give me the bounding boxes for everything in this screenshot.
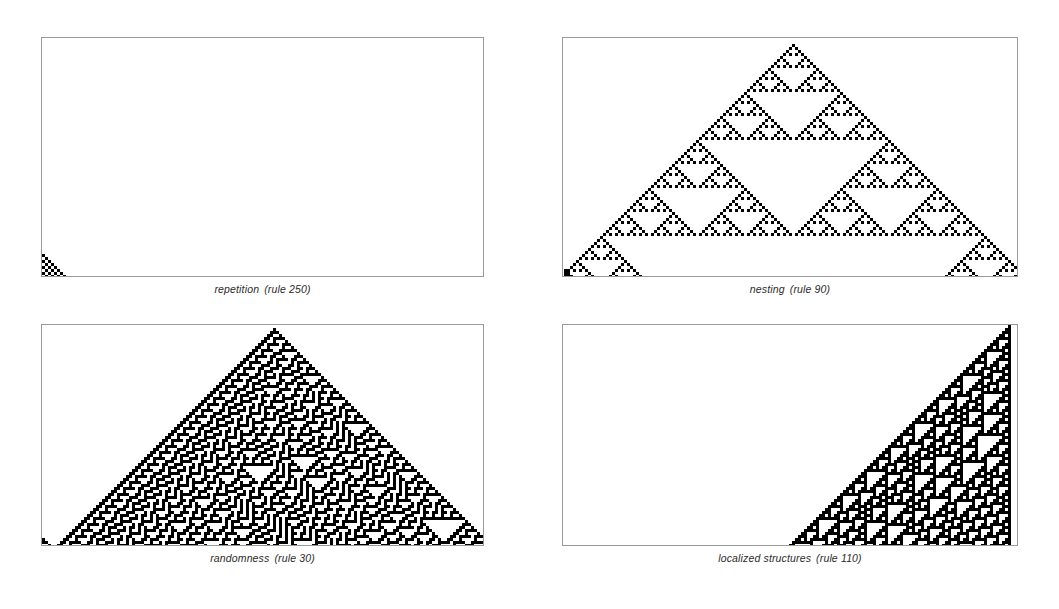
ca-plot-frame-repetition bbox=[41, 37, 484, 277]
ca-panel-localized-structures: localized structures(rule 110) bbox=[562, 324, 1018, 568]
cellular-automata-figure: repetition(rule 250) nesting(rule 90) ra… bbox=[0, 0, 1059, 609]
ca-caption-class-localized-structures: localized structures bbox=[718, 552, 811, 564]
ca-caption-rule-randomness: (rule 30) bbox=[274, 552, 314, 564]
ca-canvas-nesting bbox=[563, 38, 1017, 276]
ca-caption-nesting: nesting(rule 90) bbox=[562, 283, 1018, 295]
ca-caption-rule-nesting: (rule 90) bbox=[790, 283, 830, 295]
ca-canvas-localized-structures bbox=[563, 325, 1017, 545]
ca-canvas-randomness bbox=[42, 325, 483, 545]
ca-canvas-repetition bbox=[42, 38, 483, 276]
ca-panel-nesting: nesting(rule 90) bbox=[562, 37, 1018, 299]
ca-caption-class-nesting: nesting bbox=[750, 283, 785, 295]
ca-caption-randomness: randomness(rule 30) bbox=[41, 552, 484, 564]
ca-caption-rule-localized-structures: (rule 110) bbox=[816, 552, 862, 564]
ca-caption-class-randomness: randomness bbox=[210, 552, 269, 564]
ca-panel-repetition: repetition(rule 250) bbox=[41, 37, 484, 299]
panel-grid: repetition(rule 250) nesting(rule 90) ra… bbox=[0, 0, 1059, 609]
ca-panel-randomness: randomness(rule 30) bbox=[41, 324, 484, 568]
ca-caption-repetition: repetition(rule 250) bbox=[41, 283, 484, 295]
ca-plot-frame-localized-structures bbox=[562, 324, 1018, 546]
ca-caption-localized-structures: localized structures(rule 110) bbox=[562, 552, 1018, 564]
ca-caption-class-repetition: repetition bbox=[214, 283, 259, 295]
ca-plot-frame-randomness bbox=[41, 324, 484, 546]
ca-caption-rule-repetition: (rule 250) bbox=[264, 283, 310, 295]
ca-plot-frame-nesting bbox=[562, 37, 1018, 277]
